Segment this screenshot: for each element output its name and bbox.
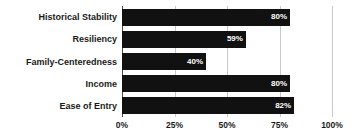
bar-series: 80%59%40%80%82% <box>122 6 332 117</box>
category-label: Historical Stability <box>38 9 117 26</box>
category-label: Family-Centeredness <box>26 53 117 70</box>
category-label: Resiliency <box>72 31 117 48</box>
bar-value-label: 59% <box>227 35 243 43</box>
bar: 82% <box>122 97 294 114</box>
bar: 80% <box>122 9 290 26</box>
x-tick-label: 0% <box>116 120 128 130</box>
x-tick-label: 75% <box>271 120 288 130</box>
bar-value-label: 80% <box>271 13 287 21</box>
category-axis-labels: Historical StabilityResiliencyFamily-Cen… <box>0 6 117 117</box>
bar: 80% <box>122 75 290 92</box>
bar: 59% <box>122 31 246 48</box>
category-label: Ease of Entry <box>59 97 117 114</box>
bar-row: 40% <box>122 53 332 70</box>
x-tick-label: 100% <box>321 120 343 130</box>
bar-row: 80% <box>122 9 332 26</box>
category-label: Income <box>85 75 117 92</box>
bar-chart: 80%59%40%80%82% Historical StabilityResi… <box>0 0 362 140</box>
bar-value-label: 80% <box>271 80 287 88</box>
bar-value-label: 82% <box>275 102 291 110</box>
x-tick-label: 50% <box>218 120 235 130</box>
bar-row: 82% <box>122 97 332 114</box>
bar: 40% <box>122 53 206 70</box>
x-axis-tick-labels: 0%25%50%75%100% <box>122 120 332 134</box>
plot-area: 80%59%40%80%82% <box>122 6 332 117</box>
x-tick-label: 25% <box>166 120 183 130</box>
bar-row: 59% <box>122 31 332 48</box>
gridline-100 <box>332 6 333 117</box>
bar-row: 80% <box>122 75 332 92</box>
bar-value-label: 40% <box>187 58 203 66</box>
